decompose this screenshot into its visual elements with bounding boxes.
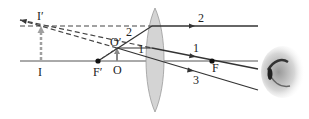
- label-ray-3: 3: [193, 73, 199, 87]
- focal-point-left: [95, 58, 100, 63]
- label-focus-right: F: [212, 61, 219, 75]
- ray-3-extension: [20, 20, 117, 48]
- ray-2-arrow-icon: [189, 24, 195, 29]
- eye-icon: [261, 46, 305, 98]
- label-focus-left: F′: [93, 65, 103, 79]
- label-image-base: I: [38, 65, 42, 79]
- label-ray-1: 1: [193, 41, 199, 55]
- label-ray-2: 2: [198, 11, 204, 25]
- convex-lens: [146, 8, 164, 112]
- label-object-base: O: [113, 63, 122, 77]
- label-object-top: O′: [110, 35, 122, 49]
- ray-diagram: I′ I O′ O F′ F 2 2 1 1 3: [0, 0, 309, 119]
- ray-1-refracted: [152, 48, 258, 69]
- label-ray-2-left: 2: [126, 25, 132, 39]
- label-ray-1-left: 1: [138, 42, 144, 56]
- label-image-top: I′: [37, 9, 44, 23]
